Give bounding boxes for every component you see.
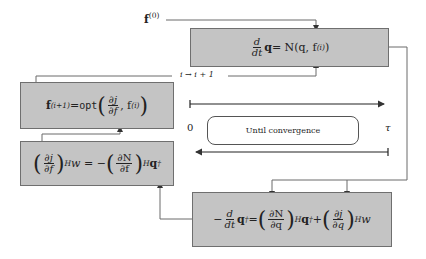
- gradient-equation-box: ( ∂j∂f )H w = − ( ∂N∂f )H q†: [20, 141, 174, 186]
- optimization-update-box: f(i+1) = opt ( ∂j∂f , f(i) ): [20, 82, 174, 129]
- time-start-label: 0: [187, 122, 193, 133]
- time-derivative: ddt: [252, 37, 262, 59]
- convergence-loop: Until convergence: [207, 116, 359, 145]
- convergence-label: Until convergence: [246, 126, 321, 135]
- forward-equation-box: ddt q = N(q, f(i)): [190, 28, 389, 67]
- initial-guess-label: f(0): [144, 11, 159, 26]
- adjoint-equation-box: − ddt q† = ( ∂N∂q )H q† + ( ∂j∂q )H w: [192, 192, 392, 247]
- time-end-label: τ: [385, 122, 391, 133]
- iteration-label: i → i + 1: [180, 70, 214, 79]
